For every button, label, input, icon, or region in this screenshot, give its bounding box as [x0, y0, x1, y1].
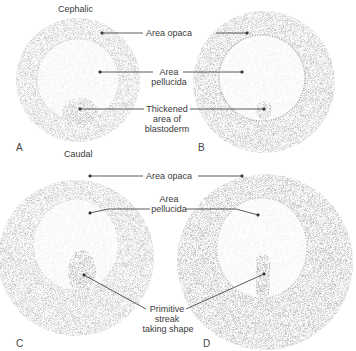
area-opaca-label-top: Area opaca: [146, 28, 192, 38]
panel-letter-d: D: [203, 338, 210, 349]
blastoderm-stages-figure: Cephalic Caudal Area opaca Area pellucid…: [0, 0, 356, 351]
embryo-d: [177, 174, 353, 350]
area-pellucida-label-top-1: Area: [156, 67, 182, 77]
panel-letter-b: B: [198, 142, 205, 153]
area-pellucida-label-bottom-2: pellucida: [148, 204, 190, 214]
primitive-streak-label-2: streak: [144, 314, 190, 324]
area-pellucida-label-top-2: pellucida: [148, 77, 190, 87]
cephalic-label: Cephalic: [58, 4, 93, 14]
embryo-b: [193, 11, 335, 153]
thickened-area-label-2: area of: [144, 114, 190, 124]
area-pellucida-label-bottom-1: Area: [156, 194, 182, 204]
primitive-streak-label-1: Primitive: [144, 304, 190, 314]
embryo-c: [0, 180, 154, 336]
primitive-streak-label-3: taking shape: [138, 324, 198, 334]
thickened-area-label-3: blastoderm: [140, 124, 194, 134]
embryo-a: [16, 18, 140, 142]
panel-letter-c: C: [16, 338, 23, 349]
area-opaca-label-bottom: Area opaca: [146, 171, 192, 181]
panel-letter-a: A: [16, 142, 23, 153]
caudal-label: Caudal: [64, 149, 93, 159]
thickened-area-label-1: Thickened: [144, 104, 190, 114]
